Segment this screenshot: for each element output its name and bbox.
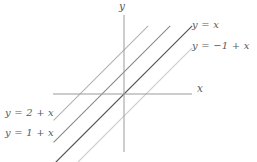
line-y-eq-1-plus-x (54, 26, 171, 143)
line-y-eq-neg1-plus-x (78, 48, 192, 162)
annotation-y-eq-1-plus-x: y = 1 + x (5, 128, 54, 138)
y-axis-label: y (119, 1, 125, 12)
annotation-y-eq-x: y = x (192, 20, 219, 30)
line-graph-figure: y x y = x y = −1 + x y = 2 + x y = 1 + x (0, 0, 257, 162)
annotation-y-eq-neg1-plus-x: y = −1 + x (192, 41, 250, 51)
annotation-y-eq-2-plus-x: y = 2 + x (5, 108, 54, 118)
x-axis-label: x (197, 83, 203, 94)
